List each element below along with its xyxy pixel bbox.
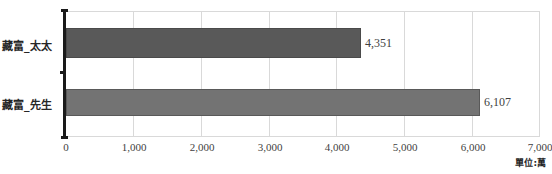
x-tick-label-1000: 1,000 [122,141,147,153]
x-tick-label-3000: 3,000 [258,141,283,153]
y-axis-cap-top [61,9,68,12]
y-axis-cap-bottom [61,136,68,139]
x-tick-label-4000: 4,000 [325,141,350,153]
bar-top[interactable] [66,28,361,58]
x-tick-label-2000: 2,000 [190,141,215,153]
x-tick-label-0: 0 [63,141,69,153]
x-tick-label-6000: 6,000 [461,141,486,153]
x-tick-label-7000: 7,000 [528,141,552,153]
gridline-6000 [472,12,473,136]
y-axis-tick-middle [60,71,66,74]
y-axis [63,9,66,139]
unit-caption: 單位:萬 [515,156,546,169]
category-label-bottom: 藏富_先生 [2,96,60,112]
value-label-bottom: 6,107 [484,95,511,110]
gridline-5000 [404,12,405,136]
bar-bottom[interactable] [66,89,480,116]
category-label-top: 藏富_太太 [2,37,60,53]
bar-top-fill [66,28,361,58]
value-label-top: 4,351 [365,36,392,51]
bar-bottom-fill [66,89,480,116]
x-tick-label-5000: 5,000 [393,141,418,153]
